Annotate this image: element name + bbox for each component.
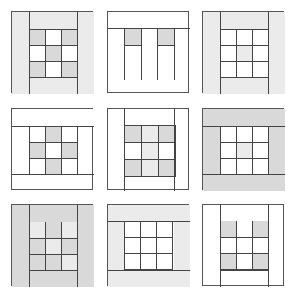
divider-line xyxy=(220,270,268,271)
divider-line xyxy=(77,12,78,94)
grid-cell xyxy=(236,237,253,254)
grid-cell xyxy=(124,159,142,177)
divider-line xyxy=(108,221,190,222)
grid-cell xyxy=(29,254,46,271)
divider-line xyxy=(174,28,175,80)
grid-cell xyxy=(29,158,46,175)
divider-line xyxy=(108,28,190,29)
grid-cell xyxy=(29,29,46,46)
grid-cell xyxy=(252,45,269,62)
grid-cell xyxy=(252,29,269,46)
grid-cell xyxy=(220,142,237,159)
divider-line xyxy=(29,29,77,30)
shaded-band xyxy=(220,12,268,29)
divider-line xyxy=(124,28,125,80)
divider-line xyxy=(220,12,221,94)
grid-cell xyxy=(252,221,269,238)
grid-cell xyxy=(140,253,157,270)
grid-cell xyxy=(236,29,253,46)
grid-cell xyxy=(156,237,173,254)
grid-cell xyxy=(45,45,62,62)
pattern-panel-8 xyxy=(107,204,189,286)
grid-cell xyxy=(141,142,159,160)
grid-cell xyxy=(252,158,269,175)
grid-cell xyxy=(157,28,174,45)
shaded-band xyxy=(29,12,77,29)
grid-cell xyxy=(124,253,141,270)
grid-cell xyxy=(220,45,237,62)
grid-cell xyxy=(61,222,77,238)
divider-line xyxy=(45,222,46,238)
grid-cell xyxy=(29,45,46,62)
shaded-band xyxy=(108,270,190,287)
shaded-band xyxy=(12,12,29,94)
grid-cell xyxy=(236,126,253,143)
pattern-panel-6 xyxy=(202,108,284,190)
pattern-panel-1 xyxy=(11,11,93,93)
grid-cell xyxy=(220,158,237,175)
pattern-panel-5 xyxy=(107,108,189,190)
grid-cell xyxy=(45,142,62,159)
grid-cell xyxy=(220,221,237,238)
grid-cell xyxy=(156,221,173,238)
grid-cell xyxy=(220,61,237,78)
grid-cell xyxy=(124,125,142,143)
grid-cell xyxy=(45,29,62,46)
grid-cell xyxy=(61,238,78,255)
divider-line xyxy=(220,29,268,30)
grid-cell xyxy=(236,253,253,270)
grid-cell xyxy=(45,158,62,175)
shaded-band xyxy=(203,126,220,174)
grid-cell xyxy=(29,61,46,78)
divider-line xyxy=(220,205,221,287)
divider-line xyxy=(108,270,190,271)
pattern-panel-7 xyxy=(11,204,93,286)
divider-line xyxy=(203,126,285,127)
grid-cell xyxy=(236,221,253,238)
shaded-band xyxy=(203,12,220,94)
grid-cell xyxy=(61,45,78,62)
grid-cell xyxy=(61,142,78,159)
grid-cell xyxy=(61,29,78,46)
divider-line xyxy=(77,205,78,287)
grid-cell xyxy=(124,28,141,45)
divider-line xyxy=(29,205,30,287)
grid-cell xyxy=(45,126,62,143)
shaded-band xyxy=(268,126,285,174)
grid-cell xyxy=(252,61,269,78)
divider-line xyxy=(203,174,285,175)
divider-line xyxy=(268,205,269,287)
divider-line xyxy=(29,12,30,94)
shaded-band xyxy=(220,77,268,94)
divider-line xyxy=(141,28,142,80)
grid-cell xyxy=(29,238,46,255)
grid-cell xyxy=(236,45,253,62)
grid-cell xyxy=(45,254,62,271)
divider-line xyxy=(12,126,94,127)
divider-line xyxy=(61,222,62,238)
divider-line xyxy=(29,126,30,174)
pattern-panel-9 xyxy=(202,204,284,286)
shaded-band xyxy=(203,109,285,126)
grid-cell xyxy=(236,61,253,78)
grid-cell xyxy=(236,158,253,175)
grid-cell xyxy=(140,221,157,238)
shaded-band xyxy=(108,221,124,270)
grid-cell xyxy=(61,254,78,271)
divider-line xyxy=(157,28,158,80)
grid-cell xyxy=(156,253,173,270)
grid-cell xyxy=(141,125,159,143)
grid-cell xyxy=(45,61,62,78)
divider-line xyxy=(268,12,269,94)
shaded-band xyxy=(29,77,77,94)
grid-cell xyxy=(45,222,61,238)
divider-line xyxy=(220,77,268,78)
shaded-band xyxy=(77,12,94,94)
pattern-panel-4 xyxy=(11,108,93,190)
shaded-band xyxy=(174,221,190,270)
pattern-panel-2 xyxy=(107,11,189,93)
divider-line xyxy=(174,109,175,191)
grid-cell xyxy=(220,126,237,143)
divider-line xyxy=(157,45,174,46)
grid-cell xyxy=(45,238,62,255)
